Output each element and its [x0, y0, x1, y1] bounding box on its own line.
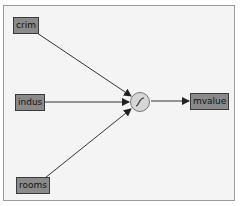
node-label: crim: [16, 20, 36, 30]
input-node-crim[interactable]: crim: [13, 17, 39, 34]
sigmoid-neuron[interactable]: [130, 92, 150, 112]
edge-rooms-to-neuron: [45, 109, 131, 178]
sigmoid-icon: [131, 93, 149, 111]
input-node-rooms[interactable]: rooms: [16, 177, 50, 194]
input-node-indus[interactable]: indus: [15, 94, 45, 111]
node-label: mvalue: [193, 96, 226, 106]
node-label: indus: [18, 97, 42, 107]
edge-crim-to-neuron: [37, 33, 131, 96]
node-label: rooms: [19, 180, 47, 190]
output-node-mvalue[interactable]: mvalue: [190, 93, 229, 110]
